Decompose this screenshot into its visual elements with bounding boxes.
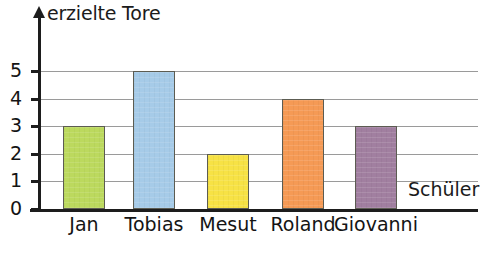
y-tick-label-5: 5	[0, 61, 22, 80]
y-tick-2	[31, 153, 40, 156]
y-tick-1	[31, 180, 40, 183]
bar-roland	[282, 99, 324, 209]
y-tick-label-4: 4	[0, 89, 22, 108]
y-tick-4	[31, 98, 40, 101]
x-label-giovanni: Giovanni	[321, 214, 431, 235]
bar-mesut	[207, 154, 249, 209]
bar-tobias	[133, 71, 175, 209]
bar-giovanni	[355, 126, 397, 209]
y-tick-5	[31, 70, 40, 73]
y-tick-3	[31, 125, 40, 128]
y-tick-0	[31, 208, 40, 211]
y-axis-title: erzielte Tore	[47, 2, 160, 24]
y-tick-label-3: 3	[0, 116, 22, 135]
x-axis-title: Schüler	[408, 178, 479, 200]
y-tick-label-0: 0	[0, 199, 22, 218]
gridline-5	[41, 71, 478, 72]
y-tick-label-2: 2	[0, 144, 22, 163]
x-axis-line	[30, 209, 478, 212]
gridline-4	[41, 99, 478, 100]
y-tick-label-1: 1	[0, 171, 22, 190]
gridline-2	[41, 154, 478, 155]
gridline-3	[41, 126, 478, 127]
bar-jan	[63, 126, 105, 209]
bar-chart: erzielte Tore 543210 JanTobiasMesutRolan…	[0, 0, 480, 257]
